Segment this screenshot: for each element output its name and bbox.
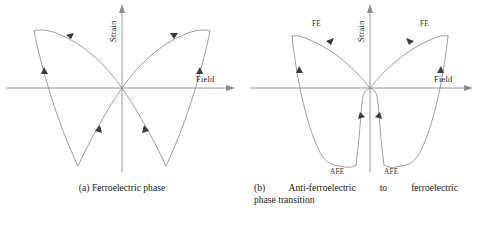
annotation-afe-right: AFE — [384, 168, 398, 176]
caption-panel-b-line1: (b) Anti-ferroelectric to ferroelectric — [254, 182, 458, 194]
curve-right-descending-a — [166, 31, 210, 166]
annotation-afe-left: AFE — [330, 168, 344, 176]
caption-panel-b: (b) Anti-ferroelectric to ferroelectric … — [244, 182, 468, 206]
panel-antiferroelectric: Strain Field FE FE AFE AFE (b) Anti-ferr… — [244, 0, 488, 225]
curve-afe-right-inner-rise-b — [370, 88, 384, 165]
curve-afe-right-outer-b — [400, 36, 448, 166]
curve-left-descending-a — [34, 31, 78, 166]
figure-container: Strain Field (a) Ferroelectric phase — [0, 0, 488, 225]
caption-panel-a: (a) Ferroelectric phase — [0, 182, 244, 194]
y-axis-arrowhead-b — [367, 4, 373, 13]
caption-panel-b-line2: phase transition — [254, 194, 458, 206]
annotation-fe-left: FE — [312, 20, 321, 28]
panel-ferroelectric: Strain Field (a) Ferroelectric phase — [0, 0, 244, 225]
x-axis-label-a: Field — [196, 74, 214, 84]
curve-afe-left-inner-rise-b — [356, 88, 370, 165]
x-axis-label-b: Field — [434, 74, 452, 84]
curve-afe-left-outer-b — [292, 36, 340, 166]
y-axis-arrowhead-a — [119, 4, 125, 13]
plot-area-a: Strain Field — [0, 0, 244, 180]
x-axis-arrowhead-a — [226, 85, 235, 91]
plot-area-b: Strain Field FE FE AFE AFE — [244, 0, 488, 180]
y-axis-label-a: Strain — [108, 20, 118, 42]
x-axis-arrowhead-b — [464, 85, 473, 91]
annotation-fe-right: FE — [420, 20, 429, 28]
y-axis-label-b: Strain — [356, 20, 366, 42]
